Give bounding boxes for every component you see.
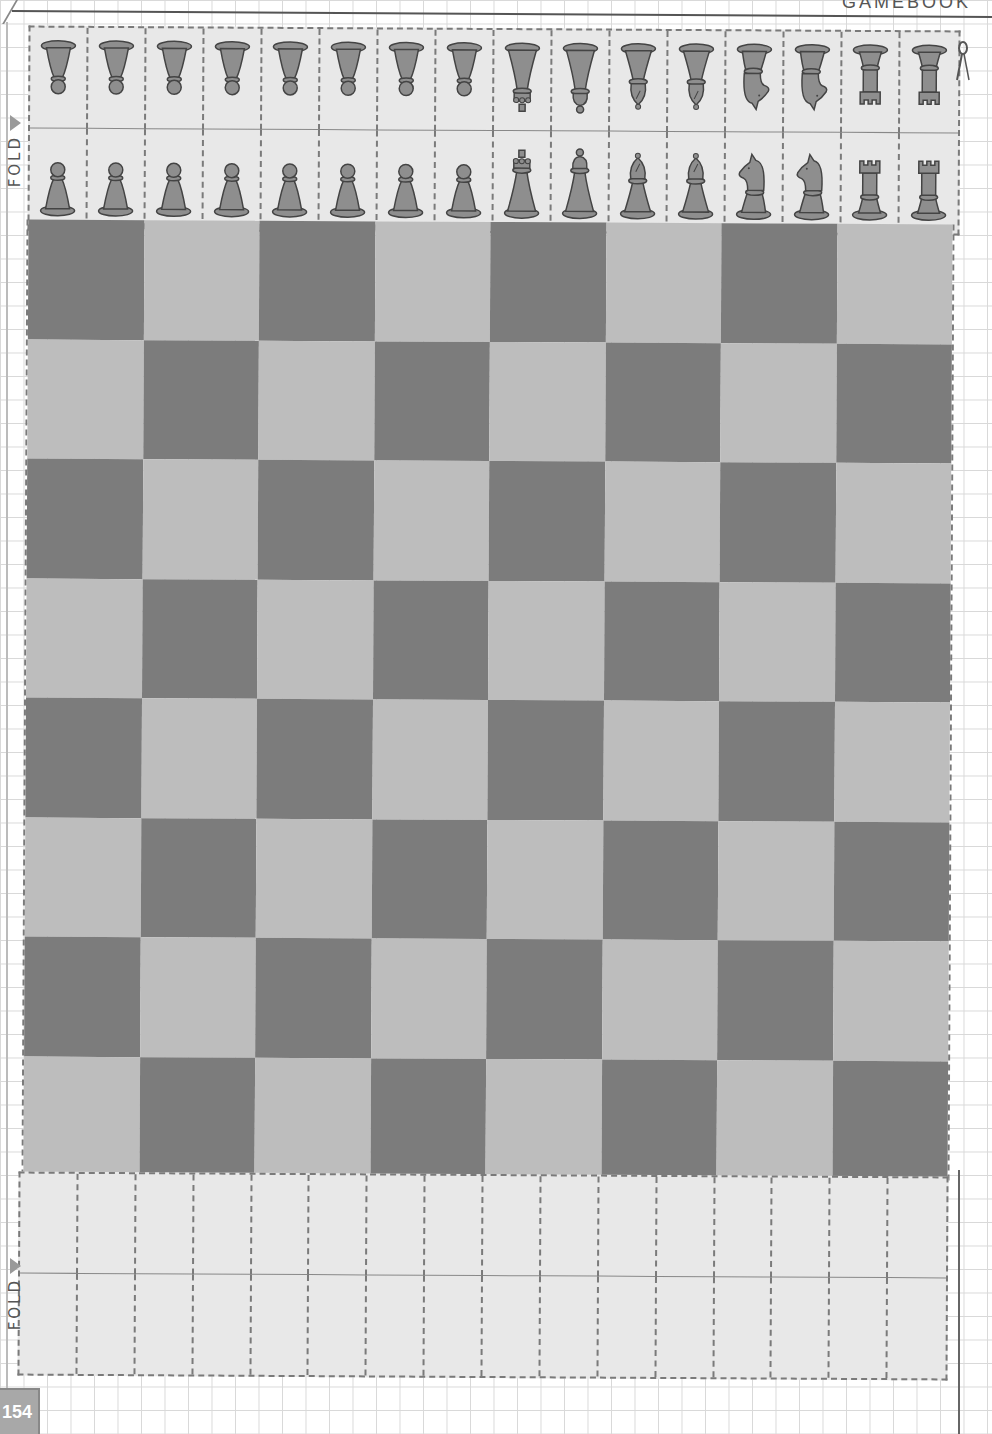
pawn-cutout-cell [378,29,437,130]
board-square [25,817,141,937]
pawn-cutout-cell [203,129,262,230]
bishop-icon [674,142,718,222]
board-square [602,820,718,940]
chess-board [22,220,955,1181]
board-square [604,462,720,582]
board-square [257,579,373,699]
queen-cutout-cell [551,131,610,232]
board-square [373,580,489,700]
board-square [485,1058,601,1178]
board-square [372,699,488,819]
fold-arrow-icon [10,1258,21,1274]
rook-icon [907,143,951,223]
board-square [143,220,259,340]
fold-text: FOLD [6,135,24,187]
pawn-icon [152,38,196,118]
queen-cutout-cell [552,30,611,131]
board-square [26,578,142,698]
rook-cutout-cell [841,132,900,233]
pawn-cutout-cell [29,128,88,229]
empty-cutout-cell [830,1278,888,1378]
board-square [718,821,834,941]
empty-cutout-cell [657,1177,715,1277]
board-square [720,343,836,463]
knight-icon [732,142,776,222]
knight-cutout-cell [783,132,842,233]
pawn-icon [94,38,138,118]
empty-cutout-cell [194,1174,252,1274]
pawn-cutout-cell [435,130,494,231]
empty-cutout-cell [78,1174,136,1274]
empty-cutout-cell [540,1276,598,1376]
board-square [259,221,375,341]
board-square [256,818,372,938]
pawn-cutout-cell [377,130,436,231]
empty-cutout-cell [830,1178,888,1278]
board-square [836,224,952,344]
pawn-icon [442,39,486,119]
pawn-icon [384,140,428,220]
bishop-icon [616,40,660,120]
board-square [255,938,371,1058]
bishop-cutout-cell [610,31,669,132]
pawn-cutout-cell [146,28,205,129]
bottom-pieces-strip [17,1172,948,1381]
empty-cutout-cell [135,1274,193,1374]
board-square [258,460,374,580]
pawn-icon [94,139,138,219]
knight-icon [790,41,834,121]
board-square [374,341,490,461]
fold-arrow-icon [10,115,21,131]
knight-icon [732,41,776,121]
board-square [27,459,143,579]
empty-cutout-cell [541,1176,599,1276]
board-square [370,1058,486,1178]
board-square [24,937,140,1057]
pawn-cutout-cell [262,29,321,130]
rook-icon [907,42,951,122]
pawn-cutout-cell [30,28,89,129]
fold-label-top: FOLD [0,115,30,205]
bishop-cutout-cell [609,131,668,232]
empty-cutout-cell [252,1175,310,1275]
empty-cutout-cell [367,1275,425,1375]
fold-text: FOLD [6,1278,24,1330]
knight-icon [790,142,834,222]
board-square [488,581,604,701]
pawn-cutout-cell [320,29,379,130]
board-square [142,579,258,699]
knight-cutout-cell [726,31,785,132]
king-cutout-cell [493,131,552,232]
page-header-partial: GAMEBOOK [842,0,971,13]
empty-cutout-cell [598,1277,656,1377]
queen-icon [558,40,602,120]
board-square [24,1056,140,1176]
pawn-cutout-cell [319,130,378,231]
board-square [719,582,835,702]
empty-cutout-cell [136,1174,194,1274]
board-square [833,941,949,1061]
empty-cutout-cell [193,1274,251,1374]
board-square [718,701,834,821]
board-square [373,460,489,580]
board-square [717,940,833,1060]
page-number-badge: 154 [0,1388,40,1434]
pawn-icon [384,39,428,119]
pawn-icon [442,140,486,220]
king-icon [500,141,544,221]
board-square [832,1060,948,1180]
pawn-icon [326,39,370,119]
pawn-cutout-cell [88,28,147,129]
board-square [605,223,721,343]
board-square [716,1060,832,1180]
board-square [28,220,144,340]
board-square [720,462,836,582]
board-square [602,940,718,1060]
board-square [601,1059,717,1179]
right-margin-line [958,1170,960,1434]
fold-label-bottom: FOLD [0,1258,30,1348]
empty-cutout-cell [888,1278,946,1378]
empty-cutout-cell [888,1178,946,1278]
top-pieces-strip [27,26,960,236]
rook-icon [848,143,892,223]
